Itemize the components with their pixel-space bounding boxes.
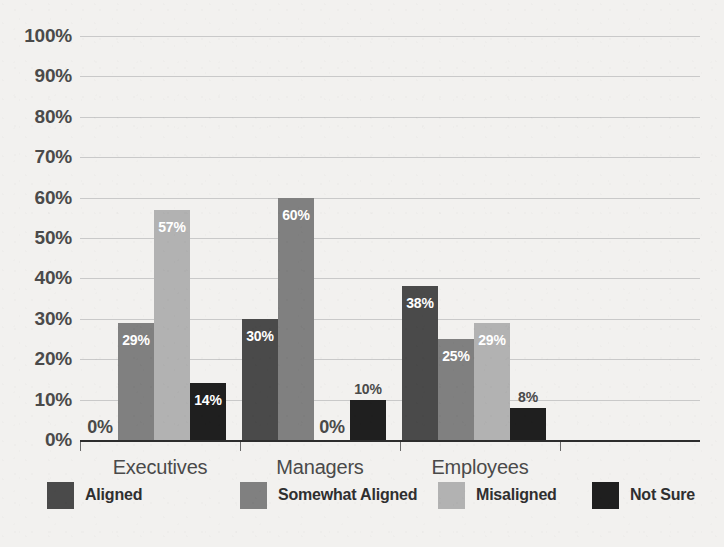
bar-chart: 0%10%20%30%40%50%60%70%80%90%100% 0%29%5… [0,0,724,547]
bar-group-bars: 38%25%29%8% [402,36,546,440]
bar-slot: 38% [402,36,438,440]
bar-slot: 57% [154,36,190,440]
bar-group: 30%60%0%10% [242,36,386,440]
x-axis-line [80,440,700,442]
bar-group: 38%25%29%8% [402,36,546,440]
x-axis-category-label: Managers [240,456,400,479]
bar-slot: 14% [190,36,226,440]
bar-value-label: 14% [190,393,226,407]
bar[interactable]: 38% [402,286,438,440]
y-axis-tick-label: 20% [6,348,72,370]
bar-value-label: 25% [438,349,474,363]
legend-label: Misaligned [476,486,557,504]
bar-slot: 29% [118,36,154,440]
bar-value-label: 38% [402,296,438,310]
bar-group: 0%29%57%14% [82,36,226,440]
x-axis-tick [400,442,401,451]
bar[interactable]: 30% [242,319,278,440]
bar-slot: 30% [242,36,278,440]
bar-value-label: 57% [154,220,190,234]
x-axis-category-label: Employees [400,456,560,479]
legend-swatch-icon [438,482,465,509]
y-axis-tick-label: 30% [6,308,72,330]
y-axis-tick-label: 40% [6,267,72,289]
legend-item[interactable]: Aligned [47,482,142,509]
legend-label: Not Sure [630,486,695,504]
legend-swatch-icon [592,482,619,509]
y-axis-tick-label: 50% [6,227,72,249]
bar[interactable]: 60% [278,198,314,440]
bar-group-bars: 0%29%57%14% [82,36,226,440]
bar-value-label: 0% [82,418,118,436]
y-axis-tick-label: 60% [6,187,72,209]
bar-group-bars: 30%60%0%10% [242,36,386,440]
bar[interactable]: 8% [510,408,546,440]
bar-value-label: 29% [118,333,154,347]
legend-item[interactable]: Not Sure [592,482,695,509]
y-axis-tick-label: 80% [6,106,72,128]
bar-slot: 8% [510,36,546,440]
bar-slot: 29% [474,36,510,440]
x-axis-tick [560,442,561,451]
bar-slot: 10% [350,36,386,440]
bar-value-label: 10% [350,382,386,396]
y-axis-tick-label: 0% [6,429,72,451]
plot-area: 0%29%57%14%30%60%0%10%38%25%29%8% [80,36,700,440]
bar-value-label: 30% [242,329,278,343]
bar-value-label: 29% [474,333,510,347]
legend-label: Somewhat Aligned [278,486,417,504]
x-axis-tick [240,442,241,451]
y-axis-tick-labels: 0%10%20%30%40%50%60%70%80%90%100% [0,36,72,440]
y-axis-tick-label: 90% [6,65,72,87]
bar-slot: 25% [438,36,474,440]
y-axis-tick-label: 100% [6,25,72,47]
y-axis-tick-label: 10% [6,389,72,411]
legend-label: Aligned [85,486,142,504]
bar-value-label: 0% [314,418,350,436]
y-axis-tick-label: 70% [6,146,72,168]
bar[interactable]: 10% [350,400,386,440]
legend-item[interactable]: Somewhat Aligned [240,482,417,509]
legend-swatch-icon [240,482,267,509]
legend-item[interactable]: Misaligned [438,482,557,509]
bar[interactable]: 14% [190,383,226,440]
bar[interactable]: 29% [118,323,154,440]
legend-swatch-icon [47,482,74,509]
bar[interactable]: 25% [438,339,474,440]
x-axis-tick [80,442,81,451]
bar-value-label: 8% [510,390,546,404]
bar[interactable]: 57% [154,210,190,440]
x-axis-category-label: Executives [80,456,240,479]
bar[interactable]: 29% [474,323,510,440]
bar-slot: 0% [82,36,118,440]
bar-slot: 60% [278,36,314,440]
bar-slot: 0% [314,36,350,440]
bar-value-label: 60% [278,208,314,222]
